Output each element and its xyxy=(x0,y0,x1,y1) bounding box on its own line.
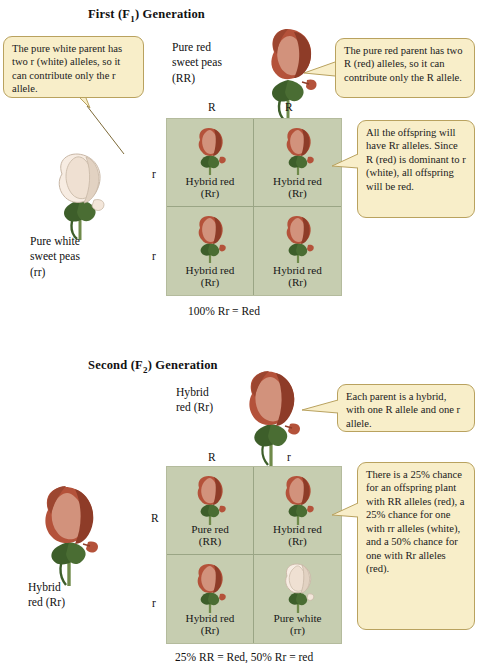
f1-top-parent-label: Pure red sweet peas (RR) xyxy=(172,40,222,86)
f2-top-parent-red-flower-icon xyxy=(232,366,310,466)
f2-generation-title: Second (F2) Generation xyxy=(88,358,218,375)
f1-cell-2-label: Hybrid red xyxy=(273,175,322,188)
f2-cell-4-genotype: (rr) xyxy=(290,624,305,637)
f2-punnett-cell-2: Hybrid red (Rr) xyxy=(254,467,341,555)
f2-callout-hybrid-parent-text: Each parent is a hybrid, with one R alle… xyxy=(346,390,467,430)
f1-callout-red-parent: The pure red parent has two R (red) alle… xyxy=(335,38,475,98)
f2-punnett-cell-1: Pure red (RR) xyxy=(167,467,254,555)
f1-left-parent-label: Pure white sweet peas (rr) xyxy=(30,234,80,280)
f2-title-end: ) Generation xyxy=(148,358,218,372)
f2-callout-probability-result: There is a 25% chance for an offspring p… xyxy=(357,462,475,630)
f2-cell-4-label: Pure white xyxy=(273,612,321,625)
f2-row-allele-2: r xyxy=(152,597,156,609)
f1-callout-white-parent: The pure white parent has two r (white) … xyxy=(3,36,144,98)
f1-punnett-cell-1: Hybrid red (Rr) xyxy=(167,119,254,207)
f1-cell-1-genotype: (Rr) xyxy=(201,187,220,200)
f1-cell-2-genotype: (Rr) xyxy=(288,187,307,200)
f2-punnett-square: Pure red (RR) Hybrid red (Rr) xyxy=(166,466,342,644)
f2-left-parent-label: Hybrid red (Rr) xyxy=(28,580,65,611)
f1-callout-offspring-result-tail xyxy=(330,148,362,180)
f1-cell-4-label: Hybrid red xyxy=(273,264,322,277)
f2-cell-3-red-flower-icon xyxy=(188,561,232,613)
f1-callout-offspring-result: All the offspring will have Rr alleles. … xyxy=(357,120,475,218)
f2-top-parent-line2: red (Rr) xyxy=(176,400,213,415)
f2-callout-probability-result-tail xyxy=(330,497,362,529)
f1-top-parent-line2: sweet peas xyxy=(172,55,222,70)
f1-cell-4-red-flower-icon xyxy=(277,213,319,263)
f1-row-allele-1: r xyxy=(152,168,156,180)
f2-cell-3-label: Hybrid red xyxy=(186,612,235,625)
f2-left-parent-line1: Hybrid xyxy=(28,580,65,595)
f1-column-allele-1: R xyxy=(208,101,216,113)
f2-cell-2-genotype: (Rr) xyxy=(288,535,307,548)
f2-row-allele-1: R xyxy=(151,512,159,524)
f1-left-parent-white-flower-icon xyxy=(42,148,116,240)
f2-left-parent-line2: red (Rr) xyxy=(28,595,65,610)
f2-top-parent-line1: Hybrid xyxy=(176,385,213,400)
f1-punnett-cell-3: Hybrid red (Rr) xyxy=(167,207,254,295)
f1-punnett-square: Hybrid red (Rr) Hybrid red (Rr) xyxy=(166,118,342,296)
f1-callout-red-parent-text: The pure red parent has two R (red) alle… xyxy=(344,44,467,84)
f1-generation-title: First (F1) Generation xyxy=(88,7,205,24)
f2-cell-3-genotype: (Rr) xyxy=(201,624,220,637)
f2-cell-4-white-flower-icon xyxy=(276,561,320,613)
f2-top-parent-label: Hybrid red (Rr) xyxy=(176,385,213,416)
f2-callout-hybrid-parent-tail xyxy=(300,396,342,424)
f2-column-allele-1: R xyxy=(208,451,216,463)
f1-left-parent-line2: sweet peas xyxy=(30,249,80,264)
f2-punnett-cell-4: Pure white (rr) xyxy=(254,555,341,643)
f1-top-parent-line3: (RR) xyxy=(172,71,222,86)
f1-cell-1-red-flower-icon xyxy=(189,125,231,175)
f1-title-main: First (F xyxy=(88,7,130,21)
f1-result-caption: 100% Rr = Red xyxy=(188,305,260,317)
f2-left-parent-red-flower-icon xyxy=(28,482,110,586)
f1-cell-3-genotype: (Rr) xyxy=(201,276,220,289)
f2-callout-probability-result-text: There is a 25% chance for an offspring p… xyxy=(366,468,467,576)
f1-cell-4-genotype: (Rr) xyxy=(288,276,307,289)
f1-cell-3-label: Hybrid red xyxy=(186,264,235,277)
f1-punnett-cell-2: Hybrid red (Rr) xyxy=(254,119,341,207)
f1-callout-white-parent-text: The pure white parent has two r (white) … xyxy=(12,42,136,96)
f1-title-end: ) Generation xyxy=(135,7,205,21)
f2-cell-1-red-flower-icon xyxy=(188,473,232,525)
f2-punnett-cell-3: Hybrid red (Rr) xyxy=(167,555,254,643)
f2-cell-1-genotype: (RR) xyxy=(199,535,221,548)
f1-row-allele-2: r xyxy=(152,250,156,262)
f1-cell-1-label: Hybrid red xyxy=(186,175,235,188)
f2-result-caption: 25% RR = Red, 50% Rr = red xyxy=(175,651,313,663)
f1-column-allele-2: R xyxy=(285,101,293,113)
f2-cell-2-red-flower-icon xyxy=(276,473,320,525)
f1-left-parent-line1: Pure white xyxy=(30,234,80,249)
f2-callout-hybrid-parent: Each parent is a hybrid, with one R alle… xyxy=(337,384,475,432)
f1-callout-offspring-result-text: All the offspring will have Rr alleles. … xyxy=(366,126,467,193)
f1-punnett-cell-4: Hybrid red (Rr) xyxy=(254,207,341,295)
f1-cell-2-red-flower-icon xyxy=(277,125,319,175)
f1-left-parent-line3: (rr) xyxy=(30,265,80,280)
f1-top-parent-line1: Pure red xyxy=(172,40,222,55)
f2-column-allele-2: r xyxy=(287,451,291,463)
f2-title-main: Second (F xyxy=(88,358,143,372)
f1-cell-3-red-flower-icon xyxy=(189,213,231,263)
